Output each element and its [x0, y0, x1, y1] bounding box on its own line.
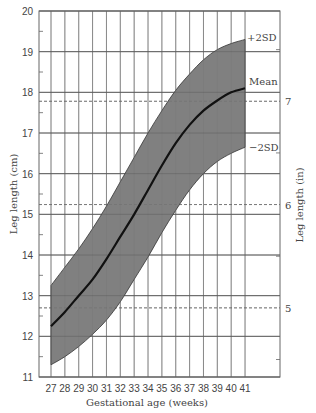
svg-text:33: 33	[129, 383, 141, 394]
label-plus-2sd: +2SD	[247, 32, 277, 43]
svg-text:12: 12	[22, 331, 34, 342]
svg-text:28: 28	[59, 383, 71, 394]
svg-text:6: 6	[285, 200, 291, 211]
svg-text:32: 32	[115, 383, 127, 394]
label-minus-2sd: −2SD	[249, 142, 279, 153]
label-mean: Mean	[249, 76, 278, 87]
svg-text:31: 31	[101, 383, 113, 394]
svg-text:7: 7	[285, 96, 291, 107]
y-axis-left: 11121314151617181920	[22, 6, 43, 383]
svg-text:37: 37	[184, 383, 196, 394]
svg-text:38: 38	[198, 383, 210, 394]
growth-chart: 11121314151617181920 567 272829303132333…	[0, 0, 316, 413]
svg-text:19: 19	[22, 47, 34, 58]
svg-text:15: 15	[22, 209, 34, 220]
svg-text:36: 36	[170, 383, 182, 394]
svg-text:13: 13	[22, 291, 34, 302]
svg-text:11: 11	[23, 372, 34, 383]
svg-text:17: 17	[22, 128, 34, 139]
y-axis-right: 567	[276, 50, 291, 360]
y-axis-title-right: Leg length (in)	[294, 167, 305, 242]
svg-text:30: 30	[87, 383, 99, 394]
svg-text:29: 29	[73, 383, 85, 394]
svg-text:40: 40	[226, 383, 238, 394]
svg-text:18: 18	[22, 87, 34, 98]
y-axis-title-left: Leg length (cm)	[8, 154, 19, 235]
svg-text:14: 14	[22, 250, 34, 261]
svg-text:34: 34	[142, 383, 154, 394]
svg-text:20: 20	[22, 6, 34, 17]
svg-text:35: 35	[156, 383, 168, 394]
x-axis: 272829303132333435363738394041	[45, 383, 251, 394]
svg-text:16: 16	[22, 169, 34, 180]
x-axis-title: Gestational age (weeks)	[86, 397, 208, 408]
svg-text:27: 27	[45, 383, 57, 394]
svg-text:41: 41	[239, 383, 251, 394]
svg-text:5: 5	[285, 303, 291, 314]
svg-text:39: 39	[212, 383, 224, 394]
